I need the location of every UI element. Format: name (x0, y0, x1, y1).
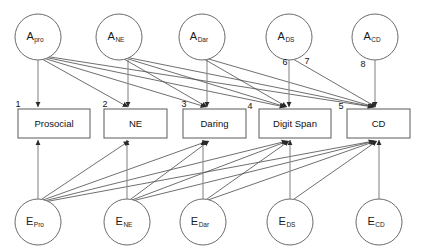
path-number-8: 8 (360, 59, 365, 69)
genetic-path-a-pro-to-box-cd (44, 56, 373, 107)
genetic-path-group (38, 56, 376, 107)
genetic-factor-group: AproANEADarADSACD (15, 14, 398, 60)
observed-variable-group: ProsocialNEDaringDigit SpanCD (18, 109, 410, 138)
box-digit-span-label: Digit Span (273, 118, 317, 129)
environment-path-e-ne-to-box-daring (131, 141, 209, 199)
environment-path-e-pro-to-box-cd (44, 141, 374, 202)
environment-path-e-pro-to-box-ne (42, 141, 129, 199)
box-daring-label: Daring (201, 118, 229, 129)
environment-factor-group: EProENEEDarEDSECD (15, 199, 402, 245)
path-number-group: 12345678 (15, 56, 365, 111)
box-cd-label: CD (372, 118, 386, 129)
box-ne-label: NE (129, 118, 142, 129)
path-number-3: 3 (181, 99, 186, 109)
environment-path-e-pro-to-box-digit-span (44, 141, 287, 201)
environment-path-e-pro-to-box-daring (43, 141, 208, 200)
path-number-6: 6 (282, 57, 287, 67)
genetic-path-a-ne-to-box-daring (124, 59, 207, 107)
path-number-4: 4 (247, 101, 252, 111)
environment-path-e-dar-to-box-cd (208, 141, 376, 200)
environment-path-e-ds-to-box-cd (294, 141, 377, 199)
environment-path-group (38, 140, 379, 202)
environment-path-e-ne-to-box-digit-span (132, 141, 288, 200)
box-prosocial-label: Prosocial (34, 118, 73, 129)
genetic-path-a-pro-to-box-ne (42, 59, 128, 107)
path-number-5: 5 (338, 101, 343, 111)
genetic-path-a-dar-to-box-cd (205, 58, 375, 107)
genetic-path-a-ne-to-box-digit-span (125, 58, 286, 107)
path-diagram-canvas: ProsocialNEDaringDigit SpanCD AproANEADa… (0, 0, 430, 251)
path-number-1: 1 (15, 99, 20, 109)
path-number-2: 2 (102, 99, 107, 109)
path-number-7: 7 (304, 56, 309, 66)
path-diagram-svg: ProsocialNEDaringDigit SpanCD AproANEADa… (0, 0, 430, 251)
